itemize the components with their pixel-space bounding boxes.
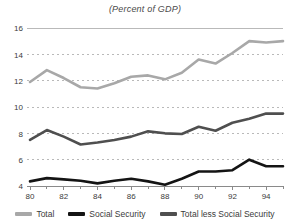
- y-axis-tick-label: 16: [14, 24, 23, 33]
- legend-label-total-less-social-security: Total less Social Security: [181, 210, 275, 219]
- chart-legend: Total Social Security Total less Social …: [0, 210, 290, 219]
- y-axis-tick-label: 14: [14, 51, 23, 60]
- x-axis-tick-label: 86: [127, 192, 136, 201]
- legend-item-total-less-social-security: Total less Social Security: [160, 210, 275, 219]
- series-line-total-less-social-security: [30, 114, 283, 145]
- legend-swatch-total-less-social-security: [160, 212, 177, 216]
- legend-swatch-total: [15, 212, 32, 216]
- y-axis-tick-label: 12: [14, 77, 23, 86]
- x-axis-tick-marks: [30, 186, 283, 190]
- x-axis-tick-labels: 8082848688909294: [26, 192, 272, 201]
- series-line-total: [30, 41, 283, 88]
- y-axis-tick-label: 10: [14, 103, 23, 112]
- x-axis-tick-label: 92: [228, 192, 237, 201]
- legend-swatch-social-security: [68, 212, 85, 216]
- series-line-social-security: [30, 160, 283, 185]
- y-axis-tick-label: 8: [19, 130, 24, 139]
- y-axis-tick-labels: 46810121416: [14, 24, 23, 191]
- x-axis-tick-label: 82: [59, 192, 68, 201]
- chart-plot-area: 46810121416 8082848688909294: [0, 0, 290, 222]
- data-series-group: [30, 41, 283, 185]
- x-axis-tick-label: 94: [262, 192, 271, 201]
- legend-label-social-security: Social Security: [89, 210, 145, 219]
- legend-item-social-security: Social Security: [68, 210, 145, 219]
- x-axis-tick-label: 84: [93, 192, 102, 201]
- chart-container: (Percent of GDP) 46810121416 80828486889…: [0, 0, 290, 222]
- y-axis-tick-label: 6: [19, 156, 24, 165]
- x-axis-tick-label: 90: [194, 192, 203, 201]
- y-axis-tick-label: 4: [19, 182, 24, 191]
- legend-label-total: Total: [36, 210, 54, 219]
- x-axis-tick-label: 88: [160, 192, 169, 201]
- x-axis-tick-label: 80: [26, 192, 35, 201]
- legend-item-total: Total: [15, 210, 54, 219]
